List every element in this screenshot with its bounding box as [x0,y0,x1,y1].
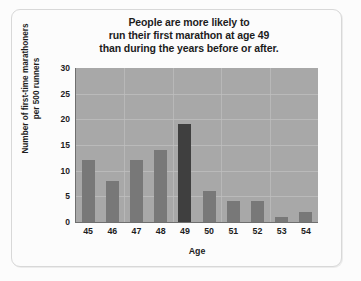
bar [178,124,191,222]
x-axis-label: Age [76,246,318,256]
chart-title-line-1: People are more likely to [58,16,320,29]
y-axis-tick-label: 10 [48,166,70,176]
x-axis-line [75,222,318,223]
bar [227,201,240,222]
y-axis-tick-label: 0 [48,217,70,227]
y-axis-ticks: 302520151050 [46,0,70,281]
chart-title-line-2: run their first marathon at age 49 [58,29,320,42]
y-axis-tick-label: 20 [48,114,70,124]
y-axis-line [75,68,76,222]
chart-title-line-3: than during the years before or after. [58,42,320,55]
plot-area [76,68,318,222]
bar [203,191,216,222]
bar [82,160,95,222]
bar [299,212,312,222]
bar [251,201,264,222]
y-axis-tick-label: 30 [48,63,70,73]
bar [106,181,119,222]
y-axis-label-line-2: per 500 runners [31,14,42,164]
bar [130,160,143,222]
y-axis-tick-label: 25 [48,89,70,99]
chart-page: People are more likely to run their firs… [0,0,361,281]
bar-series [76,68,318,222]
y-axis-label: Number of first-time marathoners per 500… [21,14,42,164]
y-axis-tick-label: 5 [48,191,70,201]
bar [154,150,167,222]
y-axis-label-line-1: Number of first-time marathoners [21,14,32,164]
y-axis-tick-label: 15 [48,140,70,150]
x-axis-tick-label: 54 [292,226,320,236]
chart-title: People are more likely to run their firs… [58,16,320,56]
